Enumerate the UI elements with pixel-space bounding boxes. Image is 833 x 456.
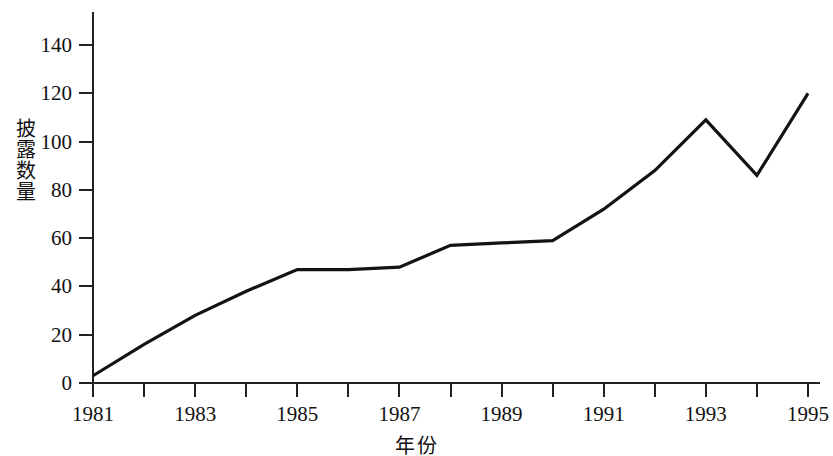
y-axis-title: 披露数量 (4, 118, 34, 202)
line-chart: 020406080100120140 198119831985198719891… (0, 0, 833, 456)
y-tick-label: 0 (0, 371, 72, 396)
x-tick-label: 1983 (174, 402, 216, 427)
x-tick-label: 1993 (685, 402, 727, 427)
x-tick-marks (93, 383, 808, 397)
axes (93, 12, 820, 383)
y-tick-label: 20 (0, 322, 72, 347)
y-tick-label: 60 (0, 226, 72, 251)
x-tick-label: 1981 (72, 402, 114, 427)
y-tick-label: 120 (0, 81, 72, 106)
x-tick-label: 1989 (481, 402, 523, 427)
x-tick-label: 1991 (583, 402, 625, 427)
y-tick-marks (79, 45, 93, 383)
data-series (93, 93, 808, 375)
x-tick-label: 1995 (787, 402, 829, 427)
x-axis-title: 年份 (0, 430, 833, 456)
x-tick-label: 1985 (276, 402, 318, 427)
series-line-disclosure-count (93, 93, 808, 375)
y-tick-label: 140 (0, 33, 72, 58)
x-tick-label: 1987 (378, 402, 420, 427)
y-tick-label: 40 (0, 274, 72, 299)
chart-canvas (0, 0, 833, 456)
